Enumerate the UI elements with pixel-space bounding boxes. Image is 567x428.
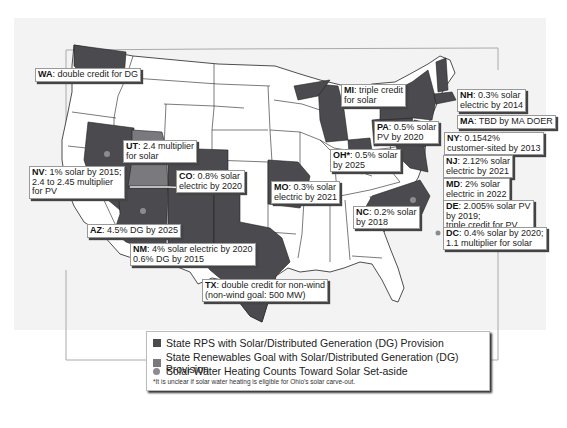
swh-dot-nc bbox=[410, 197, 416, 203]
label-ut: UT: 2.4 multiplierfor solar bbox=[123, 140, 197, 163]
legend-footnote: *It is unclear if solar water heating is… bbox=[153, 378, 355, 385]
label-nv: NV: 1% solar by 2015;2.4 to 2.45 multipl… bbox=[29, 166, 125, 199]
label-nc: NC: 0.2% solarby 2018 bbox=[353, 206, 420, 229]
state-nm bbox=[168, 188, 214, 250]
label-md: MD: 2% solarelectric in 2022 bbox=[443, 178, 510, 201]
rps-swatch-icon bbox=[153, 339, 161, 347]
label-tx: TX: double credit for non-wind(non-wind … bbox=[202, 279, 328, 302]
swh-dot-dc bbox=[436, 231, 441, 236]
label-ma: MA: TBD by MA DOER bbox=[457, 115, 556, 129]
legend-item-rps: State RPS with Solar/Distributed Generat… bbox=[153, 337, 444, 349]
label-nj: NJ: 2.12% solarelectric by 2021 bbox=[443, 155, 513, 178]
legend-item-swh: Solar Water Heating Counts Toward Solar … bbox=[153, 365, 408, 377]
label-nm: NM: 4% solar electric by 20200.6% DG by … bbox=[130, 243, 256, 266]
label-nh: NH: 0.3% solarelectric by 2014 bbox=[457, 89, 526, 112]
label-oh: OH*: 0.5% solarby 2025 bbox=[330, 149, 401, 172]
state-nh bbox=[436, 58, 448, 92]
legend: State RPS with Solar/Distributed Generat… bbox=[146, 331, 490, 391]
swh-dot-nv bbox=[104, 151, 110, 157]
label-mo: MO: 0.3% solarelectric by 2021 bbox=[271, 181, 340, 204]
label-ny: NY: 0.1542%customer-sited by 2013 bbox=[444, 132, 544, 155]
label-pa: PA: 0.5% solarPV by 2020 bbox=[374, 121, 439, 144]
label-dc: DC: 0.4% solar by 2020;1.1 multiplier fo… bbox=[443, 227, 547, 250]
swh-dot-az bbox=[140, 208, 146, 214]
label-wa: WA: double credit for DG bbox=[35, 68, 141, 82]
label-mi: MI: triple creditfor solar bbox=[341, 84, 406, 107]
swh-dot-icon bbox=[153, 368, 160, 375]
label-az: AZ: 4.5% DG by 2025 bbox=[87, 224, 181, 238]
label-co: CO: 0.8% solarelectric by 2020 bbox=[176, 170, 245, 193]
